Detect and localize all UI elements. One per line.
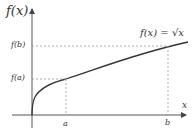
fa-label: f(a) [11, 74, 25, 82]
b-label: b [165, 119, 170, 127]
a-label: a [63, 120, 68, 128]
fb-label: f(b) [11, 41, 25, 49]
sqrt-diagram: f(x) x f(b) f(a) a b f(x) = √x [0, 0, 196, 134]
x-axis-label: x [182, 101, 187, 110]
sqrt-curve [32, 42, 188, 115]
function-label: f(x) = √x [140, 28, 184, 38]
diagram-canvas [0, 0, 196, 134]
y-axis-label: f(x) [6, 4, 28, 17]
